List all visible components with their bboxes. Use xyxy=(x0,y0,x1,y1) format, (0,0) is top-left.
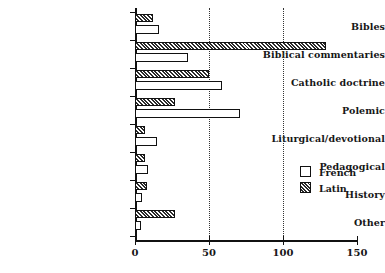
legend-label-french: French xyxy=(319,167,356,178)
bar-latin-pedagogical xyxy=(135,154,145,162)
category-label-catholic-doctrine: Catholic doctrine xyxy=(255,77,385,88)
bar-french-catholic-doctrine xyxy=(135,81,222,90)
category-label-liturgical-devotional: Liturgical/devotional xyxy=(255,133,385,144)
bar-french-biblical-commentaries xyxy=(135,53,188,62)
bar-latin-bibles xyxy=(135,14,153,22)
x-axis-tick-150 xyxy=(357,236,358,245)
bar-french-pedagogical xyxy=(135,165,148,174)
bar-french-liturgical-devotional xyxy=(135,137,157,146)
legend-swatch-latin-hatched-square-icon xyxy=(300,182,311,193)
category-label-other: Other xyxy=(255,217,385,228)
bar-latin-polemic xyxy=(135,98,175,106)
legend-label-latin: Latin xyxy=(319,183,347,194)
x-tick-label-0: 0 xyxy=(123,247,147,258)
x-tick-label-100: 100 xyxy=(269,247,297,258)
bar-latin-history xyxy=(135,182,147,190)
x-axis-tick-100 xyxy=(283,236,284,245)
x-axis-tick-0 xyxy=(135,236,136,245)
x-axis-line xyxy=(135,240,358,242)
bar-latin-other xyxy=(135,210,175,218)
category-label-polemic: Polemic xyxy=(255,105,385,116)
horizontal-bar-chart: Bibles Biblical commentaries Catholic do… xyxy=(0,0,385,273)
x-tick-label-50: 50 xyxy=(197,247,221,258)
bar-french-history xyxy=(135,193,142,202)
category-label-bibles: Bibles xyxy=(255,21,385,32)
bar-latin-biblical-commentaries xyxy=(135,42,326,50)
bar-french-polemic xyxy=(135,109,240,118)
category-label-biblical-commentaries: Biblical commentaries xyxy=(255,49,385,60)
x-axis-tick-50 xyxy=(209,236,210,245)
bar-latin-liturgical-devotional xyxy=(135,126,145,134)
bar-latin-catholic-doctrine xyxy=(135,70,209,78)
x-tick-label-150: 150 xyxy=(343,247,371,258)
legend-swatch-french-open-square-icon xyxy=(300,166,311,177)
bar-french-other xyxy=(135,221,141,230)
bar-french-bibles xyxy=(135,25,159,34)
